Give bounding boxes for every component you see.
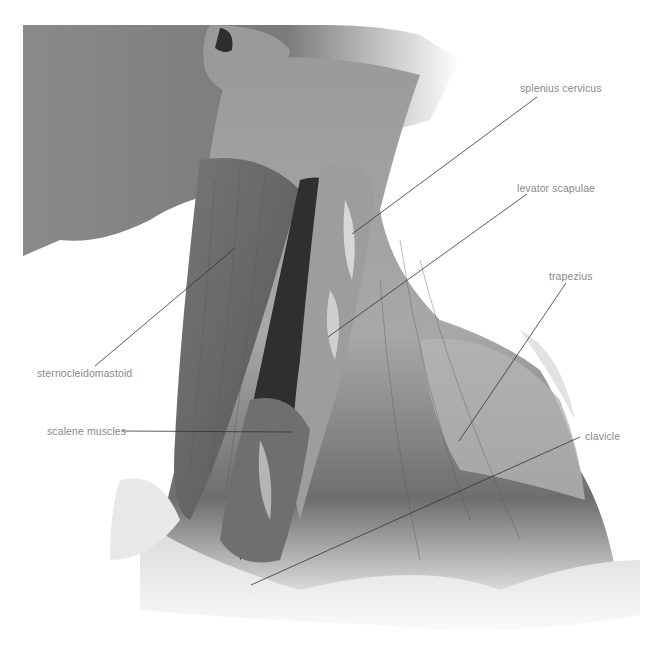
anatomy-figure: splenius cervicus levator scapulae trape… [0,0,653,655]
label-scalene-muscles: scalene muscles [47,425,126,437]
label-sternocleidomastoid: sternocleidomastoid [37,367,132,379]
label-levator-scapulae: levator scapulae [517,182,595,194]
neck-muscle-illustration [0,0,653,655]
label-splenius-cervicus: splenius cervicus [520,82,602,94]
label-trapezius: trapezius [549,270,593,282]
label-clavicle: clavicle [585,430,620,442]
